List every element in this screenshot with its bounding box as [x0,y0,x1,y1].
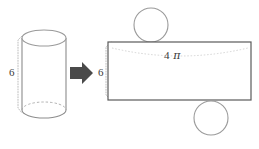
figure-canvas [0,0,259,149]
geometry-figure: 6 6 4 π [0,0,259,149]
right-arrow-icon [70,62,93,84]
transform-arrow-group [70,62,93,84]
bottom-base-circle [194,101,228,135]
cylinder-height-label: 6 [9,67,15,78]
rect-width-label: 4 π [164,50,181,61]
cylinder-top-ellipse [22,30,66,46]
cylinder-height-dimension-line [18,36,22,113]
cylinder-body [22,38,66,118]
top-base-circle [134,8,168,42]
pi-symbol: π [173,49,181,62]
rect-height-label: 6 [98,67,104,78]
net-group [106,8,251,135]
cylinder-group [18,30,66,118]
